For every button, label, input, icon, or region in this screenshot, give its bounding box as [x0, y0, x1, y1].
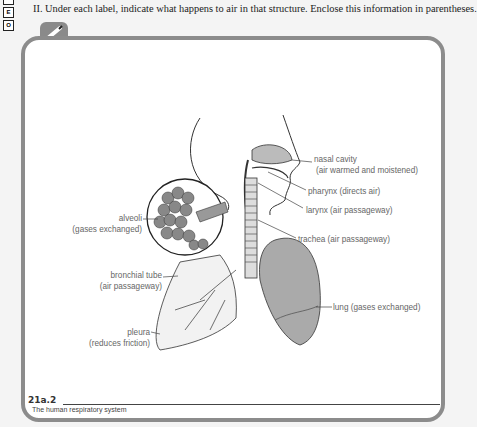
figure-caption: The human respiratory system [32, 406, 127, 413]
label-lung: lung (gases exchanged) [333, 302, 420, 313]
label-bronchial-tube: bronchial tube (air passageway) [60, 270, 162, 292]
figure-divider [63, 404, 440, 405]
label-alveoli: alveoli (gases exchanged) [50, 213, 142, 235]
label-trachea: trachea (air passageway) [298, 234, 390, 245]
label-pharynx: pharynx (directs air) [308, 186, 380, 197]
label-nasal-cavity: nasal cavity (air warmed and moistened) [314, 154, 418, 176]
label-larynx: larynx (air passageway) [306, 205, 392, 216]
label-pleura: pleura (reduces friction) [60, 327, 150, 349]
figure-number: 21a.2 [28, 395, 56, 405]
